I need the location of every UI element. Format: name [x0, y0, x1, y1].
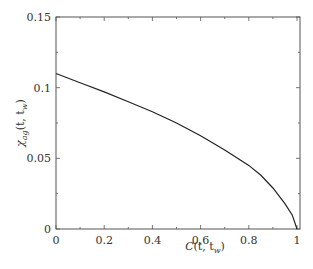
x-tick-label: 0.8 [240, 234, 258, 247]
x-tick-label: 1 [294, 234, 301, 247]
x-tick-labels: 00.20.40.60.81 [53, 234, 301, 247]
y-tick-labels: 00.050.10.15 [27, 11, 52, 236]
chart: 00.20.40.60.81 00.050.10.15 C(t, tw) χag… [0, 0, 313, 269]
y-tick-label: 0.1 [34, 82, 52, 95]
plot-frame [56, 17, 300, 229]
x-axis-label: C(t, tw) [185, 240, 225, 255]
x-tick-label: 0 [53, 234, 60, 247]
x-tick-label: 0.2 [95, 234, 113, 247]
y-tick-label: 0 [44, 223, 51, 236]
axis-ticks [56, 17, 300, 229]
y-tick-label: 0.05 [27, 152, 52, 165]
x-tick-label: 0.4 [144, 234, 162, 247]
y-axis-label: χag(t, tw) [14, 99, 29, 148]
y-tick-label: 0.15 [27, 11, 52, 24]
data-line [56, 74, 297, 230]
